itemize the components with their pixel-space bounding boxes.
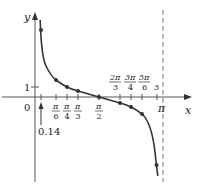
y-axis-arrow-icon — [32, 12, 38, 20]
tick-label-3: 3 — [154, 83, 159, 92]
x-axis-arrow-icon — [184, 94, 192, 100]
annotation-label: 0.14 — [38, 126, 60, 137]
svg-text:5π: 5π — [139, 73, 150, 82]
tick-label-3pi4: 3π 4 — [124, 73, 136, 92]
tick-label-5pi6: 5π 6 — [138, 73, 150, 92]
tick-label-pi4: π 4 — [63, 102, 71, 121]
tick-label-2pi3: 2π 3 — [109, 73, 121, 92]
svg-text:6: 6 — [142, 83, 147, 92]
svg-text:2: 2 — [97, 112, 102, 121]
svg-text:3π: 3π — [125, 73, 136, 82]
svg-text:2π: 2π — [109, 73, 121, 82]
svg-text:4: 4 — [65, 112, 70, 121]
svg-text:π: π — [74, 102, 81, 111]
svg-text:π: π — [63, 102, 70, 111]
svg-text:3: 3 — [113, 83, 118, 92]
annotation-arrow-icon — [39, 102, 44, 109]
svg-text:π: π — [95, 102, 102, 111]
y-one-label: 1 — [24, 82, 30, 93]
origin-label: 0 — [24, 102, 30, 113]
pi-label: π — [157, 102, 166, 115]
tick-label-pi6: π 6 — [52, 102, 60, 121]
tick-label-pi2: π 2 — [95, 102, 103, 121]
cot-graph: 0.14 y x 0 1 π π 6 π 4 π 3 π 2 2π 3 3π 4… — [0, 0, 198, 184]
svg-text:6: 6 — [54, 112, 59, 121]
svg-text:3: 3 — [76, 112, 81, 121]
x-axis-label: x — [185, 104, 192, 117]
y-axis-label: y — [23, 11, 31, 24]
tick-label-pi3: π 3 — [74, 102, 82, 121]
svg-text:4: 4 — [128, 83, 133, 92]
svg-text:π: π — [52, 102, 59, 111]
